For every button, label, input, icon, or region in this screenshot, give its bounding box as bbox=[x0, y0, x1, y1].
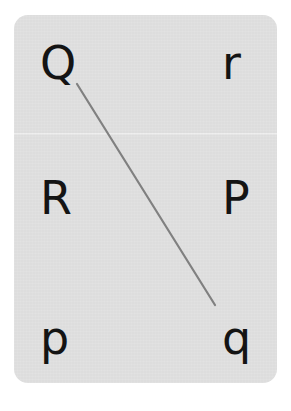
letter-cell-middle-right[interactable]: P bbox=[222, 175, 250, 221]
letter-cell-top-left[interactable]: Q bbox=[40, 40, 76, 86]
letter-cell-middle-left[interactable]: R bbox=[40, 175, 72, 221]
letter-cell-bottom-left[interactable]: p bbox=[40, 315, 69, 361]
letter-cell-top-right[interactable]: r bbox=[222, 40, 241, 86]
card-seam-divider bbox=[14, 133, 277, 135]
letter-cell-bottom-right[interactable]: q bbox=[222, 315, 251, 361]
worksheet-canvas: Q r R P p q bbox=[0, 0, 291, 411]
